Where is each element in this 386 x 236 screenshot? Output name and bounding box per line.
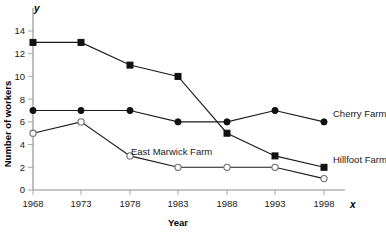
axes-group bbox=[33, 8, 345, 190]
y-axis-title: Number of workers bbox=[2, 81, 13, 168]
series-label-hillfoot-farm: Hillfoot Farm bbox=[333, 154, 386, 165]
series-east-marwick-farm: East Marwick Farm bbox=[30, 119, 327, 182]
x-tick-marks bbox=[33, 190, 324, 195]
x-tick-label: 1973 bbox=[70, 198, 91, 209]
hillfoot-farm-marker bbox=[175, 73, 181, 79]
east-marwick-farm-marker bbox=[30, 130, 36, 136]
east-marwick-farm-marker bbox=[272, 164, 278, 170]
east-marwick-farm-marker bbox=[175, 164, 181, 170]
workers-by-farm-line-chart: 0 2 4 6 8 10 12 14 1968 1973 1978 1983 1… bbox=[0, 0, 386, 236]
cherry-farm-marker bbox=[321, 119, 327, 125]
x-tick-label: 1983 bbox=[167, 198, 188, 209]
hillfoot-farm-marker bbox=[30, 39, 36, 45]
y-tick-label: 0 bbox=[20, 184, 25, 195]
cherry-farm-marker bbox=[272, 107, 278, 113]
x-tick-label: 1998 bbox=[313, 198, 334, 209]
x-tick-labels: 1968 1973 1978 1983 1988 1993 1998 bbox=[22, 198, 334, 209]
x-axis-title: Year bbox=[168, 217, 188, 228]
east-marwick-farm-marker bbox=[321, 176, 327, 182]
chart-canvas: 0 2 4 6 8 10 12 14 1968 1973 1978 1983 1… bbox=[0, 0, 386, 236]
x-tick-label: 1993 bbox=[264, 198, 285, 209]
cherry-farm-marker bbox=[127, 107, 133, 113]
y-tick-labels: 0 2 4 6 8 10 12 14 bbox=[14, 25, 25, 195]
y-tick-label: 2 bbox=[20, 162, 25, 173]
y-tick-label: 14 bbox=[14, 25, 25, 36]
y-axis-symbol: y bbox=[33, 3, 40, 14]
y-tick-label: 10 bbox=[14, 71, 25, 82]
y-tick-label: 6 bbox=[20, 116, 25, 127]
cherry-farm-marker bbox=[224, 119, 230, 125]
x-axis-symbol: x bbox=[349, 199, 356, 210]
x-tick-label: 1978 bbox=[119, 198, 140, 209]
east-marwick-farm-marker bbox=[224, 164, 230, 170]
x-tick-label: 1988 bbox=[216, 198, 237, 209]
cherry-farm-marker bbox=[175, 119, 181, 125]
hillfoot-farm-marker bbox=[321, 164, 327, 170]
y-tick-label: 12 bbox=[14, 48, 25, 59]
cherry-farm-marker bbox=[78, 107, 84, 113]
hillfoot-farm-marker bbox=[78, 39, 84, 45]
east-marwick-farm-marker bbox=[78, 119, 84, 125]
hillfoot-farm-marker bbox=[224, 130, 230, 136]
cherry-farm-marker bbox=[30, 107, 36, 113]
y-tick-label: 4 bbox=[20, 139, 25, 150]
series-label-cherry-farm: Cherry Farm bbox=[333, 108, 386, 119]
x-tick-label: 1968 bbox=[22, 198, 43, 209]
series-label-east-marwick-farm: East Marwick Farm bbox=[131, 146, 212, 157]
hillfoot-farm-marker bbox=[127, 62, 133, 68]
y-tick-label: 8 bbox=[20, 94, 25, 105]
hillfoot-farm-marker bbox=[272, 153, 278, 159]
